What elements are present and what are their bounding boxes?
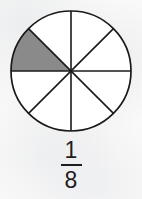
fraction-label: 1 8 [0,139,142,192]
fraction-numerator: 1 [61,139,82,164]
fraction-denominator: 8 [61,166,82,192]
fraction: 1 8 [61,139,82,192]
